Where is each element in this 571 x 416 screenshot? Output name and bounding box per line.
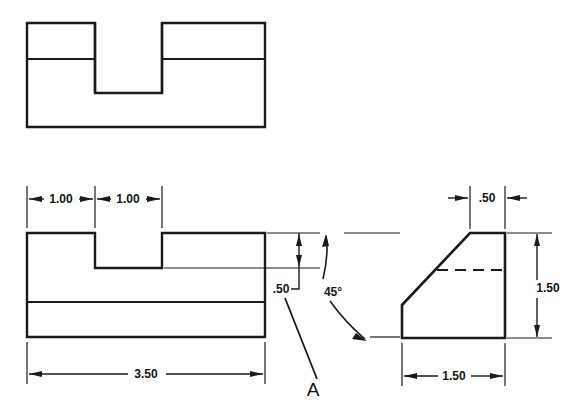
dimension-label-3-50: 3.50 <box>134 367 158 381</box>
arrowhead-depth-left <box>404 373 417 379</box>
front-view-outline <box>27 233 265 337</box>
angle-leader-lower <box>330 301 365 339</box>
arrowhead-right-2 <box>147 196 160 202</box>
dimension-label-50-notch: .50 <box>273 282 290 296</box>
arrowhead-right-1 <box>80 196 93 202</box>
arrowhead-left-2 <box>97 196 110 202</box>
front-overall-dimension-group: 3.50 <box>27 342 265 384</box>
top-view-group <box>27 23 265 127</box>
top-view-outline <box>27 23 265 127</box>
notch-depth-dimension-group: .50 <box>164 233 320 296</box>
arrowhead-height-top <box>534 234 540 246</box>
arrowhead-chamfer-right <box>507 195 520 201</box>
height-dimension-group: 1.50 <box>507 233 560 338</box>
arrowhead-notch-top <box>296 234 302 246</box>
dimension-leader-hook-50 <box>291 268 299 289</box>
engineering-drawing-svg: 1.00 1.00 3.50 .50 A <box>0 0 571 416</box>
dimension-label-50-chamfer: .50 <box>479 191 496 205</box>
arrowhead-chamfer-left <box>455 195 468 201</box>
angle-label-45-degrees: 45° <box>324 285 342 299</box>
surface-a-leader-line <box>285 298 317 379</box>
dimension-label-1-50-depth: 1.50 <box>442 369 466 383</box>
depth-dimension-group: 1.50 <box>402 343 505 386</box>
angle-callout-group: 45° <box>322 234 367 341</box>
arrowhead-notch-bottom <box>296 255 302 267</box>
arrowhead-depth-right <box>490 373 503 379</box>
surface-label-a: A <box>307 379 320 400</box>
chamfer-dimension-group: .50 <box>448 186 527 229</box>
right-side-view-group <box>402 233 505 338</box>
surface-a-leader-group: A <box>285 298 320 400</box>
dimension-label-1-50-height: 1.50 <box>536 281 560 295</box>
dimension-label-1-00-left: 1.00 <box>49 192 73 206</box>
dimension-label-1-00-right: 1.00 <box>116 192 140 206</box>
arrowhead-overall-right <box>250 371 263 377</box>
arrowhead-height-bottom <box>534 325 540 337</box>
arrowhead-overall-left <box>29 371 42 377</box>
arrowhead-left-1 <box>29 196 42 202</box>
right-side-view-outline <box>402 233 505 338</box>
front-view-group <box>27 233 265 337</box>
technical-drawing-canvas: 1.00 1.00 3.50 .50 A <box>0 0 571 416</box>
arrowhead-angle-upper <box>322 234 329 247</box>
front-top-dimension-group: 1.00 1.00 <box>27 186 162 228</box>
